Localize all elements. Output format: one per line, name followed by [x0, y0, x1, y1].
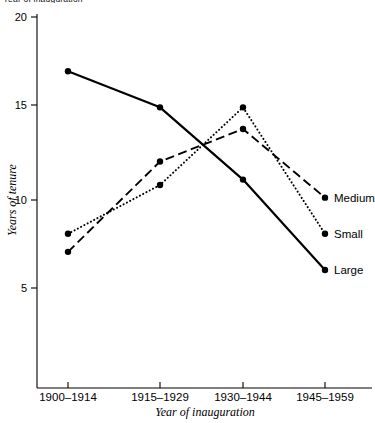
series-label-small: Small — [334, 228, 363, 240]
line-chart-svg: 20 15 10 5 Years of tenure 1900–1914 — [0, 0, 375, 423]
data-point — [240, 126, 246, 132]
series-line-small — [68, 107, 325, 233]
x-axis-title: Year of inauguration — [155, 405, 255, 419]
y-tick-20: 20 — [15, 11, 37, 23]
series-label-layer: LargeMediumSmall — [334, 192, 375, 276]
x-axis: 1900–1914 1915–1929 1930–1944 1945–1959 … — [37, 382, 372, 419]
x-tick-1: 1915–1929 — [131, 382, 189, 403]
series-medium — [65, 126, 328, 255]
y-tick-label-5: 5 — [21, 282, 27, 294]
data-point — [65, 68, 71, 74]
data-point — [322, 194, 328, 200]
chart-container: Year of inauguration 20 15 10 5 Years of… — [0, 0, 375, 423]
data-point — [157, 158, 163, 164]
y-axis-title: Years of tenure — [5, 163, 19, 235]
series-label-large: Large — [334, 264, 363, 276]
x-tick-label-1: 1915–1929 — [131, 391, 189, 403]
x-tick-0: 1900–1914 — [39, 382, 97, 403]
y-tick-label-20: 20 — [15, 11, 27, 23]
series-line-large — [68, 71, 325, 270]
y-axis: 20 15 10 5 Years of tenure — [5, 11, 37, 388]
y-tick-5: 5 — [21, 282, 37, 294]
x-tick-label-0: 1900–1914 — [39, 391, 97, 403]
data-point — [240, 176, 246, 182]
data-point — [322, 267, 328, 273]
data-point — [65, 249, 71, 255]
y-tick-label-15: 15 — [15, 99, 27, 111]
data-point — [157, 182, 163, 188]
x-tick-3: 1945–1959 — [296, 382, 354, 403]
data-point — [240, 104, 246, 110]
x-tick-label-2: 1930–1944 — [214, 391, 272, 403]
data-point — [157, 104, 163, 110]
series-small — [65, 104, 328, 237]
series-line-medium — [68, 129, 325, 252]
series-label-medium: Medium — [334, 192, 375, 204]
y-tick-15: 15 — [15, 99, 37, 111]
series-layer — [65, 68, 328, 273]
series-large — [65, 68, 328, 273]
x-tick-2: 1930–1944 — [214, 382, 272, 403]
data-point — [65, 231, 71, 237]
x-tick-label-3: 1945–1959 — [296, 391, 354, 403]
data-point — [322, 231, 328, 237]
